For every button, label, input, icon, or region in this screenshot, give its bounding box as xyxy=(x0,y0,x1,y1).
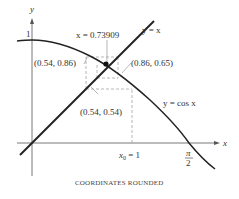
fixed-point-marker xyxy=(103,61,108,66)
point-label-054-086: (0.54, 0.86) xyxy=(34,58,76,68)
y-axis-arrow-icon xyxy=(30,18,34,24)
svg-text:π: π xyxy=(186,148,191,158)
y-axis-label: y xyxy=(29,4,34,14)
line-label: y = x xyxy=(142,25,161,35)
y-tick-1-label: 1 xyxy=(26,29,31,39)
pi-over-2-tick-label: π 2 xyxy=(185,148,193,168)
x0-tick-label: x0 = 1 xyxy=(118,150,140,161)
svg-text:2: 2 xyxy=(186,158,191,168)
x-axis-arrow-icon xyxy=(214,141,220,145)
dashed-construction xyxy=(86,40,132,143)
x-axis-label: x xyxy=(222,138,227,148)
caption: COORDINATES ROUNDED xyxy=(75,179,163,187)
fixed-point-label: x = 0.73909 xyxy=(76,30,120,40)
cos-curve-label: y = cos x xyxy=(163,98,196,108)
point-label-086-065: (0.86, 0.65) xyxy=(131,58,173,68)
point-label-054-054: (0.54, 0.54) xyxy=(80,107,122,117)
fixed-point-diagram: y 1 x x = 0.73909 y = x y = cos x (0.54,… xyxy=(0,0,239,199)
